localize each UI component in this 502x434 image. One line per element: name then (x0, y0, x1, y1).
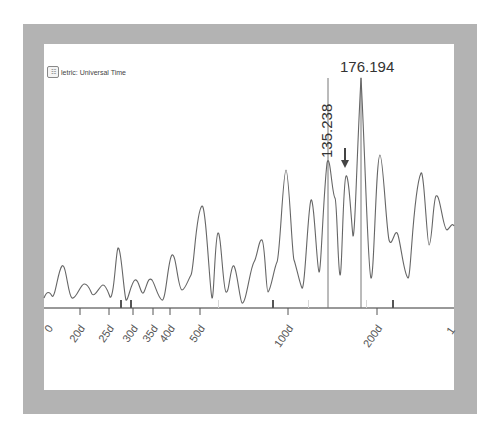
peak-label-main: 176.194 (340, 58, 394, 75)
chart-settings-icon[interactable]: ☷ (47, 66, 59, 78)
event-markers (120, 300, 394, 308)
periodogram-line (44, 78, 454, 303)
x-axis-ticks (80, 308, 377, 315)
legend[interactable]: ☷ letric: Universal Time (47, 66, 126, 78)
faint-markers (218, 300, 367, 308)
down-arrow-icon (341, 148, 349, 168)
legend-label: letric: Universal Time (61, 69, 126, 76)
peak-label-secondary: 135.238 (318, 104, 335, 158)
